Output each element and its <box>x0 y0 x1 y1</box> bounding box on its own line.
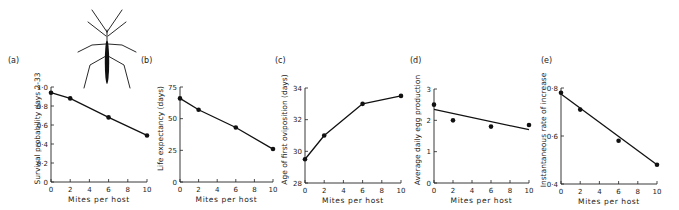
data-point <box>303 157 308 162</box>
data-point <box>527 123 532 128</box>
data-point <box>196 108 201 113</box>
data-point <box>489 124 494 129</box>
y-tick-label: 28 <box>293 180 302 188</box>
x-tick-label: 10 <box>525 187 534 195</box>
regression-line <box>561 94 657 165</box>
x-axis-label: Mites per host <box>578 197 640 206</box>
y-tick-label: 32 <box>293 116 302 124</box>
data-point <box>616 139 621 144</box>
data-point <box>399 94 404 99</box>
y-tick-label: 3 <box>427 86 431 94</box>
panel-label: (b) <box>141 56 152 65</box>
data-line <box>51 93 147 136</box>
x-tick-label: 6 <box>360 187 365 195</box>
y-axis-label: Life expectancy (days) <box>156 86 165 171</box>
y-tick-label: 0·8 <box>547 85 558 93</box>
x-tick-label: 2 <box>322 187 326 195</box>
x-tick-label: 2 <box>578 188 582 196</box>
x-tick-label: 8 <box>380 187 384 195</box>
y-axis-label: Average daily egg production <box>413 75 422 186</box>
data-point <box>145 133 150 138</box>
chart-panel-d: (d)02468100123Mites per hostAverage dail… <box>410 56 533 205</box>
y-tick-label: 0 <box>44 179 48 187</box>
data-point <box>271 147 276 152</box>
data-point <box>106 115 111 120</box>
x-tick-label: 4 <box>470 187 475 195</box>
x-tick-label: 2 <box>196 186 200 194</box>
x-tick-label: 6 <box>106 186 111 194</box>
data-point <box>49 90 54 95</box>
data-curve <box>305 96 401 159</box>
data-point <box>360 102 365 107</box>
x-tick-label: 2 <box>451 187 455 195</box>
data-point <box>559 91 564 96</box>
y-tick-label: 2 <box>427 117 431 125</box>
x-tick-label: 10 <box>397 187 406 195</box>
y-axis-label: Survival probability days 2-33 <box>33 72 42 184</box>
x-tick-label: 0 <box>432 187 436 195</box>
x-tick-label: 6 <box>234 186 239 194</box>
y-tick-label: 75 <box>168 84 177 92</box>
y-tick-label: 30 <box>293 148 302 156</box>
panel-label: (e) <box>541 56 552 65</box>
chart-panel-e: (e)02468100·40·60·8Mites per hostInstant… <box>539 56 661 206</box>
data-point <box>322 133 327 138</box>
x-axis-label: Mites per host <box>322 196 384 205</box>
figure: (a)024681000·20·40·60·81·0Mites per host… <box>0 0 679 210</box>
y-axis-label: Age of first oviposition (days) <box>280 74 289 184</box>
data-line <box>180 98 273 149</box>
chart-panel-b: (b)02468100255075Mites per hostLife expe… <box>141 56 277 204</box>
y-tick-label: 0 <box>173 179 177 187</box>
x-tick-label: 8 <box>636 188 640 196</box>
x-axis-label: Mites per host <box>451 196 513 205</box>
x-tick-label: 2 <box>68 186 72 194</box>
x-axis-label: Mites per host <box>68 195 130 204</box>
x-tick-label: 8 <box>126 186 130 194</box>
data-point <box>451 118 456 123</box>
x-tick-label: 10 <box>143 186 152 194</box>
y-tick-label: 0·6 <box>547 133 559 141</box>
x-tick-label: 4 <box>87 186 92 194</box>
x-tick-label: 6 <box>616 188 621 196</box>
x-tick-label: 8 <box>252 186 256 194</box>
x-tick-label: 8 <box>508 187 512 195</box>
data-point <box>432 102 437 107</box>
x-tick-label: 4 <box>341 187 346 195</box>
x-tick-label: 0 <box>178 186 182 194</box>
x-tick-label: 10 <box>653 188 662 196</box>
panel-label: (d) <box>410 56 421 65</box>
x-tick-label: 4 <box>215 186 220 194</box>
data-point <box>578 107 583 112</box>
data-point <box>178 96 183 101</box>
x-tick-label: 0 <box>559 188 563 196</box>
x-tick-label: 4 <box>597 188 602 196</box>
chart-panel-c: (c)024681028303234Mites per hostAge of f… <box>275 56 405 205</box>
data-point <box>234 125 239 130</box>
x-tick-label: 0 <box>303 187 307 195</box>
y-tick-label: 25 <box>168 147 177 155</box>
data-point <box>655 163 660 168</box>
chart-panel-a: (a)024681000·20·40·60·81·0Mites per host… <box>8 56 151 204</box>
x-tick-label: 6 <box>489 187 494 195</box>
y-tick-label: 0·4 <box>547 181 559 189</box>
y-tick-label: 1 <box>427 148 431 156</box>
panel-label: (a) <box>8 56 19 65</box>
x-tick-label: 0 <box>49 186 53 194</box>
x-axis-label: Mites per host <box>196 195 258 204</box>
data-point <box>68 96 73 101</box>
y-axis-label: Instantaneous rate of increase <box>539 72 548 187</box>
x-tick-label: 10 <box>269 186 278 194</box>
y-tick-label: 50 <box>168 115 177 123</box>
panel-label: (c) <box>275 56 286 65</box>
y-tick-label: 0 <box>427 180 431 188</box>
regression-line <box>434 109 529 129</box>
y-tick-label: 34 <box>293 85 302 93</box>
water-strider-icon <box>78 10 136 88</box>
